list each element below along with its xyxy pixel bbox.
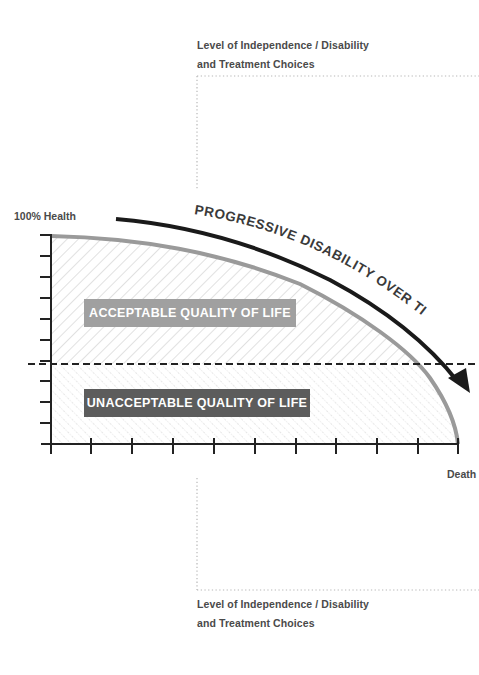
bottom-dotted-frame [197, 478, 479, 590]
disability-diagram: PROGRESSIVE DISABILITY OVER TIME [0, 0, 479, 675]
y-axis-top-label: 100% Health [14, 210, 76, 222]
top-caption-line2: and Treatment Choices [197, 55, 369, 74]
top-caption-line1: Level of Independence / Disability [197, 36, 369, 55]
unacceptable-quality-label: UNACCEPTABLE QUALITY OF LIFE [84, 389, 310, 417]
top-axis-caption: Level of Independence / Disability and T… [197, 36, 369, 74]
x-axis-end-label: Death [447, 468, 476, 480]
bottom-caption-line2: and Treatment Choices [197, 614, 369, 633]
acceptable-quality-label: ACCEPTABLE QUALITY OF LIFE [84, 299, 296, 327]
bottom-caption-line1: Level of Independence / Disability [197, 595, 369, 614]
top-dotted-frame [197, 76, 479, 190]
y-axis [40, 234, 51, 453]
bottom-axis-caption: Level of Independence / Disability and T… [197, 595, 369, 633]
